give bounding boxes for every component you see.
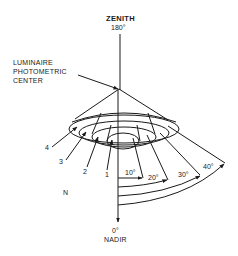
angle-label-10: 10°	[125, 169, 136, 176]
radial-30	[160, 133, 200, 175]
cone-number-4: 4	[45, 144, 49, 151]
center-label-line1: LUMINAIRE	[13, 59, 53, 66]
angle-label-20: 20°	[148, 174, 159, 181]
cone-number-2: 2	[83, 168, 87, 175]
nadir-label: NADIR	[104, 236, 127, 243]
radial-40	[168, 126, 225, 163]
angle-label-30: 30°	[178, 171, 189, 178]
arc-20	[118, 180, 167, 187]
north-label: N	[63, 189, 68, 196]
zenith-angle: 180°	[111, 24, 126, 31]
center-label-line2: PHOTOMETRIC	[13, 68, 67, 75]
diagram-svg: ZENITH 180° LUMINAIRE PHOTOMETRIC CENTER…	[0, 0, 238, 256]
cone-number-1: 1	[105, 171, 109, 178]
angle-label-40: 40°	[203, 163, 214, 170]
cone-number-3: 3	[59, 158, 63, 165]
zenith-label: ZENITH	[106, 14, 135, 23]
photometric-diagram: ZENITH 180° LUMINAIRE PHOTOMETRIC CENTER…	[0, 0, 238, 256]
leader-4	[52, 127, 77, 147]
center-label-line3: CENTER	[13, 77, 43, 84]
center-pointer	[78, 75, 118, 89]
cone-edge-left	[75, 89, 119, 119]
ring-2	[92, 127, 156, 147]
nadir-angle: 0°	[112, 227, 119, 234]
